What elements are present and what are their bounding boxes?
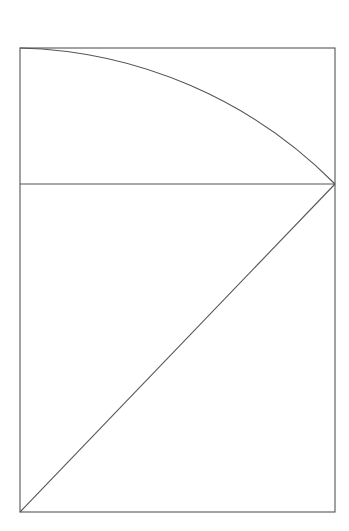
geometric-construction-diagram xyxy=(0,0,349,531)
diagonal-line xyxy=(20,184,335,512)
circular-arc xyxy=(20,48,335,184)
outer-rectangle xyxy=(20,48,335,512)
